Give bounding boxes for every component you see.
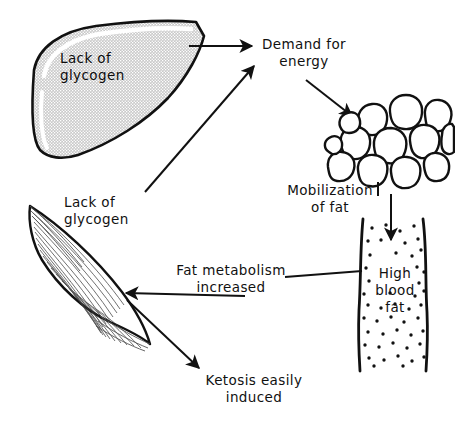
label-mobilization-line2: of fat <box>311 199 349 215</box>
label-mobilization-of-fat: Mobilizationof fat <box>276 182 384 216</box>
label-demand-for-energy: Demand forenergy <box>256 36 352 70</box>
label-liver-line2: glycogen <box>60 67 125 83</box>
label-highbloodfat-line3: fat <box>385 299 405 315</box>
label-mobilization-line1: Mobilization <box>287 182 373 198</box>
label-liver-glycogen: Lack ofglycogen <box>60 50 125 84</box>
diagram-canvas: Lack ofglycogen Demand forenergy Mobiliz… <box>0 0 455 432</box>
label-ketosis-line2: induced <box>226 389 283 405</box>
liver-body <box>32 21 204 158</box>
label-demand-line2: energy <box>279 53 328 69</box>
fat-cell <box>441 124 454 154</box>
label-muscle-line1: Lack of <box>64 194 115 210</box>
label-muscle-line2: glycogen <box>64 211 129 227</box>
label-highbloodfat-line1: High <box>379 265 412 281</box>
label-fatmetab-line2: increased <box>196 279 265 295</box>
fat-cell <box>325 136 342 154</box>
fat-cell <box>390 95 422 129</box>
fat-cell <box>424 153 449 181</box>
vessel-wall-left <box>359 219 363 371</box>
connector-demand-to-adipose <box>306 80 352 116</box>
connector-fatmetab-to-vessel <box>285 271 362 277</box>
label-demand-line1: Demand for <box>262 36 346 52</box>
fat-cell <box>339 112 360 133</box>
label-muscle-glycogen: Lack ofglycogen <box>64 194 129 228</box>
liver-organ <box>32 21 204 158</box>
fat-cell <box>328 152 355 181</box>
label-fatmetab-line1: Fat metabolism <box>176 262 286 278</box>
label-fat-metabolism-increased: Fat metabolismincreased <box>176 262 286 296</box>
label-liver-line1: Lack of <box>60 50 111 66</box>
label-high-blood-fat: Highbloodfat <box>367 265 423 316</box>
vessel-wall-right <box>423 219 427 371</box>
label-ketosis-line1: Ketosis easily <box>206 372 303 388</box>
label-highbloodfat-line2: blood <box>375 282 414 298</box>
fat-cell <box>391 157 421 188</box>
label-ketosis-induced: Ketosis easilyinduced <box>199 372 309 406</box>
